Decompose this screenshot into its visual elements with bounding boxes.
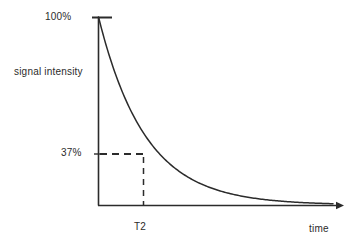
y-axis-tick-label-100: 100% xyxy=(45,11,71,22)
t2-decay-plot xyxy=(0,0,356,244)
figure-canvas: 100% signal intensity 37% T2 time xyxy=(0,0,356,244)
x-axis-label: time xyxy=(309,223,329,234)
y-axis-tick-label-37: 37% xyxy=(61,147,82,158)
x-axis-arrowhead xyxy=(336,202,344,209)
t2-decay-curve xyxy=(99,17,334,204)
y-axis-label: signal intensity xyxy=(14,66,83,77)
x-axis-tick-label-t2: T2 xyxy=(134,221,146,232)
